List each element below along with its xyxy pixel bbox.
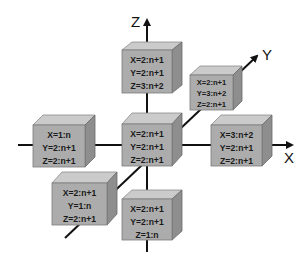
cube-label-line: Y=3:n+2 — [197, 89, 227, 98]
axes-diagram: Z Y X X=2:n+1 Y=2:n+1 Z=3:n+2 X=2:n+1 Y=… — [0, 0, 306, 264]
y-axis-label: Y — [262, 46, 272, 63]
cube-x-neg: X=1:n Y=2:n+1 Z=2:n+1 — [33, 115, 95, 167]
cube-label-line: X=2:n+1 — [130, 55, 164, 65]
cube-label-line: X=2:n+1 — [130, 129, 164, 139]
cube-label-line: Z=1:n — [135, 230, 158, 240]
cube-label-line: Z=2:n+1 — [43, 156, 76, 166]
cube-x-pos: X=3:n+2 Y=2:n+1 Z=2:n+1 — [211, 115, 272, 166]
cube-label-line: X=2:n+1 — [197, 78, 227, 87]
cube-label-line: Z=2:n+1 — [63, 214, 96, 224]
cube-label-line: Z=2:n+1 — [197, 100, 227, 109]
z-axis-label: Z — [131, 13, 140, 30]
cube-y-pos: X=2:n+1 Y=3:n+2 Z=2:n+1 — [190, 66, 242, 110]
cube-label-line: X=3:n+2 — [220, 130, 254, 140]
cube-label-line: Y=2:n+1 — [42, 143, 76, 153]
cube-label-line: Y=2:n+1 — [220, 143, 254, 153]
cube-label-line: Y=1:n — [68, 201, 92, 211]
cube-label-line: Y=2:n+1 — [130, 217, 164, 227]
cube-z-pos: X=2:n+1 Y=2:n+1 Z=3:n+2 — [122, 42, 182, 93]
diagram-canvas: Z Y X X=2:n+1 Y=2:n+1 Z=3:n+2 X=2:n+1 Y=… — [0, 0, 306, 264]
cube-label-line: X=2:n+1 — [130, 204, 164, 214]
cube-label-line: Z=2:n+1 — [131, 155, 164, 165]
cube-label-line: X=1:n — [47, 130, 71, 140]
cube-y-neg: X=2:n+1 Y=1:n Z=2:n+1 — [52, 172, 117, 225]
x-axis-label: X — [284, 149, 294, 166]
cube-label-line: Z=2:n+1 — [220, 156, 253, 166]
cube-center: X=2:n+1 Y=2:n+1 Z=2:n+1 — [122, 113, 182, 166]
cube-label-line: Y=2:n+1 — [130, 68, 164, 78]
cube-label-line: Z=3:n+2 — [131, 81, 164, 91]
cube-z-neg: X=2:n+1 Y=2:n+1 Z=1:n — [122, 190, 182, 240]
cube-label-line: X=2:n+1 — [63, 188, 97, 198]
cube-label-line: Y=2:n+1 — [130, 142, 164, 152]
